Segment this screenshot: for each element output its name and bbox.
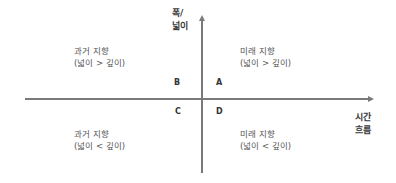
y-axis-label-line1: 폭/ (172, 7, 188, 20)
quadrant-b-line1: 과거 지향 (74, 45, 125, 57)
quadrant-c-line1: 과거 지향 (74, 128, 125, 140)
quadrant-a-line1: 미래 지향 (240, 45, 291, 57)
quadrant-d-line1: 미래 지향 (240, 128, 291, 140)
quadrant-b-letter: B (174, 78, 180, 87)
quadrant-c-letter: C (175, 107, 181, 116)
quadrant-d-text: 미래 지향 (넓이 < 깊이) (240, 128, 291, 152)
x-axis-label-line1: 시간 (355, 111, 371, 124)
quadrant-a-line2: (넓이 > 깊이) (240, 57, 291, 69)
arrow-up-icon (199, 15, 205, 21)
quadrant-a-text: 미래 지향 (넓이 > 깊이) (240, 45, 291, 69)
quadrant-d-letter: D (216, 107, 223, 116)
quadrant-b-text: 과거 지향 (넓이 > 깊이) (74, 45, 125, 69)
horizontal-axis (25, 98, 369, 100)
quadrant-a-letter: A (216, 78, 222, 87)
quadrant-c-line2: (넓이 < 깊이) (74, 140, 125, 152)
quadrant-b-line2: (넓이 > 깊이) (74, 57, 125, 69)
y-axis-label: 폭/ 넓이 (172, 7, 188, 33)
quadrant-d-line2: (넓이 < 깊이) (240, 140, 291, 152)
vertical-axis (201, 21, 203, 173)
x-axis-label: 시간 흐름 (355, 111, 371, 137)
arrow-right-icon (368, 96, 374, 102)
x-axis-label-line2: 흐름 (355, 124, 371, 137)
y-axis-label-line2: 넓이 (172, 20, 188, 33)
quadrant-c-text: 과거 지향 (넓이 < 깊이) (74, 128, 125, 152)
